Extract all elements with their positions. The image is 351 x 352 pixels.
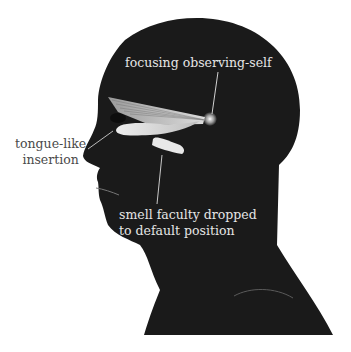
- label-tongue-line2: insertion: [15, 152, 86, 168]
- label-smell-line1: smell faculty dropped: [119, 207, 257, 223]
- label-tongue: tongue-like insertion: [15, 136, 86, 168]
- label-smell: smell faculty dropped to default positio…: [119, 207, 257, 239]
- eye-socket: [110, 113, 126, 123]
- focus-spark-icon: [203, 112, 217, 126]
- label-focus: focusing observing-self: [125, 55, 272, 71]
- label-smell-line2: to default position: [119, 223, 257, 239]
- head-diagram: [0, 0, 351, 352]
- label-tongue-line1: tongue-like: [15, 136, 86, 152]
